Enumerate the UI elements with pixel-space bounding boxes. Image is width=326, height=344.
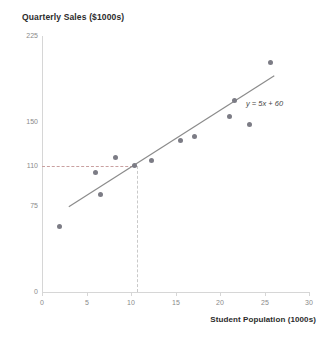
x-tickmark-5 [87, 293, 88, 296]
x-tick-label-15: 15 [164, 299, 188, 306]
x-tick-label-25: 25 [253, 299, 277, 306]
data-point [232, 98, 237, 103]
regression-equation-label: y = 5x + 60 [246, 99, 283, 108]
x-tick-label-0: 0 [30, 299, 54, 306]
reference-line-horizontal-110 [42, 166, 138, 167]
x-tickmark-30 [309, 293, 310, 296]
y-tick-label-225: 225 [12, 32, 38, 39]
data-point [178, 138, 183, 143]
x-tickmark-25 [265, 293, 266, 296]
data-point [247, 122, 252, 127]
data-point [98, 192, 103, 197]
equation-text: y = 5x + 60 [246, 99, 283, 108]
y-tick-label-0: 0 [12, 288, 38, 295]
x-tickmark-10 [131, 293, 132, 296]
data-point [149, 158, 154, 163]
x-tick-label-30: 30 [297, 299, 321, 306]
y-tick-label-110: 110 [12, 162, 38, 169]
x-tick-label-5: 5 [75, 299, 99, 306]
x-tick-label-20: 20 [208, 299, 232, 306]
x-axis-title: Student Population (1000s) [210, 315, 316, 324]
data-point [93, 170, 98, 175]
y-tick-label-75: 75 [12, 202, 38, 209]
data-point [113, 155, 118, 160]
scatter-chart: Quarterly Sales ($1000s) 225 150 110 75 … [0, 0, 326, 344]
data-point [268, 60, 273, 65]
x-tickmark-20 [220, 293, 221, 296]
x-tick-label-10: 10 [119, 299, 143, 306]
data-point [227, 114, 232, 119]
x-tickmark-0 [42, 293, 43, 296]
chart-title: Quarterly Sales ($1000s) [22, 12, 124, 22]
x-tickmark-15 [176, 293, 177, 296]
data-point [192, 134, 197, 139]
y-tick-label-150: 150 [12, 118, 38, 125]
y-axis-line [42, 36, 43, 293]
data-point [57, 224, 62, 229]
reference-line-vertical-10 [137, 166, 138, 292]
